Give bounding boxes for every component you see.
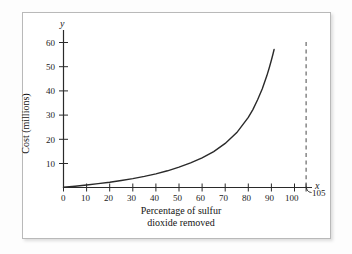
x-tick-label-70: 70: [219, 193, 228, 203]
figure-root: y x 10 20 30 40 50 60 0 10 20 30 40 50 6…: [0, 0, 352, 254]
y-axis-title: Cost (millions): [20, 72, 31, 176]
asymptote-value-label: 105: [312, 188, 326, 198]
y-tick-label-50: 50: [46, 62, 55, 72]
x-tick-label-100: 100: [285, 193, 299, 203]
x-tick-label-60: 60: [196, 193, 205, 203]
y-tick-label-40: 40: [46, 86, 55, 96]
x-axis-title: Percentage of sulfur dioxide removed: [96, 205, 266, 229]
x-axis-title-line-2: dioxide removed: [96, 217, 266, 229]
x-tick-label-90: 90: [265, 193, 274, 203]
x-tick-label-10: 10: [81, 193, 90, 203]
x-tick-label-0: 0: [61, 193, 66, 203]
x-tick-label-20: 20: [104, 193, 113, 203]
x-tick-label-30: 30: [127, 193, 136, 203]
y-axis-variable-label: y: [60, 18, 64, 29]
x-axis-title-line-1: Percentage of sulfur: [96, 205, 266, 217]
x-tick-label-40: 40: [150, 193, 159, 203]
y-tick-label-10: 10: [46, 159, 55, 169]
x-tick-label-50: 50: [173, 193, 182, 203]
y-tick-label-30: 30: [46, 110, 55, 120]
x-tick-label-80: 80: [242, 193, 251, 203]
y-tick-label-60: 60: [46, 38, 55, 48]
y-tick-label-20: 20: [46, 135, 55, 145]
